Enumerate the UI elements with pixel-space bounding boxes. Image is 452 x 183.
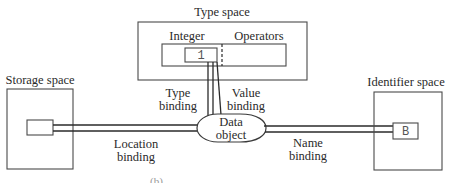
- location-binding-label-2: binding: [117, 150, 156, 164]
- operators-label: Operators: [234, 29, 283, 43]
- storage-space-box: [7, 89, 73, 169]
- location-binding-label-1: Location: [114, 137, 159, 151]
- storage-location-box: [27, 120, 53, 135]
- value-binding-line: [217, 62, 221, 115]
- binding-diagram: Type space Integer Operators 1 Type bind…: [0, 0, 452, 183]
- type-space-title: Type space: [194, 5, 250, 19]
- name-binding-label-2: binding: [289, 149, 328, 163]
- data-object-label-2: object: [216, 128, 247, 142]
- value-text: 1: [197, 49, 204, 63]
- caption-fragment: (b) ...: [150, 175, 174, 183]
- identifier-space-title: Identifier space: [367, 75, 445, 89]
- name-binding-label-1: Name: [293, 136, 323, 150]
- storage-space-title: Storage space: [5, 73, 75, 87]
- integer-type-box: [162, 44, 286, 66]
- value-binding-label-2: binding: [227, 99, 266, 113]
- data-object-label-1: Data: [219, 115, 243, 129]
- value-binding-label-1: Value: [232, 86, 261, 100]
- type-binding-label-2: binding: [159, 99, 198, 113]
- identifier-text: B: [402, 125, 409, 139]
- type-binding-label-1: Type: [166, 86, 191, 100]
- integer-label: Integer: [169, 29, 205, 43]
